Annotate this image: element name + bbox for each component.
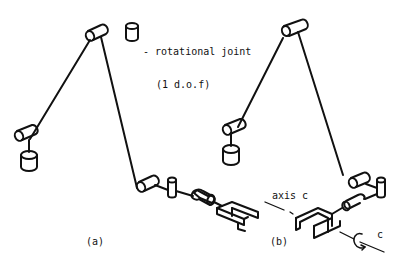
joint-a-roll-icon (192, 190, 216, 206)
rotation-c-label: c (377, 229, 383, 240)
panel-a-label: (a) (86, 236, 104, 247)
joint-a-left-icon (13, 125, 37, 152)
link-b-right (298, 32, 343, 175)
joint-b-roll-icon (341, 194, 365, 211)
gripper-a-icon (217, 202, 258, 231)
panel-b-label: (b) (270, 236, 288, 247)
joint-b-left-vertical-icon (223, 145, 239, 165)
joint-b-top-icon (281, 19, 308, 37)
joint-a-left-vertical-icon (21, 151, 37, 171)
joint-a-lower-vertical-icon (168, 178, 176, 198)
joint-a-top-icon (84, 25, 108, 43)
legend-line-1: - rotational joint (143, 46, 251, 57)
joint-b-lower-vertical-icon (377, 178, 385, 198)
legend-joint-icon (126, 23, 138, 41)
joint-b-lower-horizontal-icon (347, 173, 370, 190)
link-a-left (30, 40, 90, 139)
legend-line-2: (1 d.o.f) (143, 79, 251, 90)
axis-c-label: axis c (272, 190, 308, 201)
link-a-right (101, 37, 137, 188)
legend-text: - rotational joint (1 d.o.f) (143, 24, 251, 101)
joint-b-left-icon (221, 119, 245, 146)
